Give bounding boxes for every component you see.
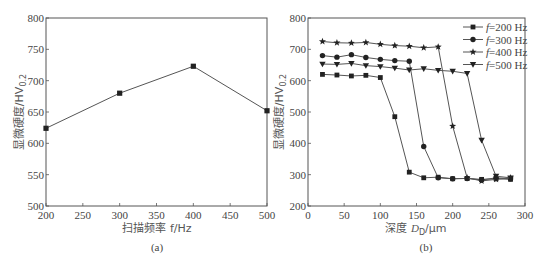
x-tick-label: 50 (339, 209, 351, 221)
square-marker (117, 91, 122, 96)
x-tick-label: 300 (111, 209, 128, 221)
circle-marker (334, 54, 339, 59)
star-marker (478, 177, 485, 184)
triangle-down-marker (478, 138, 484, 144)
x-tick-label: 250 (75, 209, 92, 221)
legend-item: f=300 Hz (463, 34, 527, 46)
circle-marker (421, 144, 426, 149)
triangle-down-marker (464, 71, 470, 77)
y-tick-label: 600 (290, 75, 307, 87)
square-marker (43, 126, 48, 131)
y-tick-label: 700 (290, 43, 307, 55)
y-tick-label: 650 (28, 106, 45, 118)
circle-marker (378, 57, 383, 62)
y-tick-label: 800 (28, 12, 45, 24)
circle-marker (392, 58, 397, 63)
series-line (322, 74, 510, 179)
chart-b-xlabel-pre: 深度 (385, 221, 411, 235)
star-marker (391, 42, 398, 49)
square-marker (363, 73, 368, 78)
series-line (322, 63, 510, 177)
chart-b: 050100150200250300200300400500600700800f… (290, 12, 534, 221)
square-marker (335, 73, 340, 78)
chart-b-xlabel: 深度 DD/μm (385, 221, 446, 237)
chart-b-ylabel: 显微硬度/HV0.2 (272, 74, 288, 150)
series-line (46, 66, 267, 128)
square-marker (264, 108, 269, 113)
legend-label: f=400 Hz (486, 46, 527, 58)
square-marker (320, 72, 325, 77)
x-tick-label: 400 (185, 209, 202, 221)
x-tick-label: 450 (222, 209, 239, 221)
square-marker (407, 170, 412, 175)
y-tick-label: 550 (28, 169, 45, 181)
star-marker (333, 39, 340, 46)
star-marker (377, 41, 384, 48)
legend-item: f=400 Hz (463, 46, 527, 58)
y-tick-label: 500 (28, 200, 45, 212)
figure: 2002503003504004505005005506006507007508… (0, 0, 542, 269)
series-line (322, 55, 510, 180)
circle-marker (407, 59, 412, 64)
y-tick-label: 500 (290, 106, 307, 118)
svg-text:显微硬度/HV0.2: 显微硬度/HV0.2 (12, 74, 28, 150)
y-tick-label: 750 (28, 43, 45, 55)
chart-a-panel-label: (a) (151, 241, 164, 254)
square-marker (378, 75, 383, 80)
svg-text:显微硬度/HV0.2: 显微硬度/HV0.2 (272, 74, 288, 150)
series-hardness (43, 64, 269, 131)
square-marker (471, 25, 476, 30)
x-tick-label: 300 (517, 209, 534, 221)
circle-marker (450, 176, 455, 181)
chart-a-ylabel-sub: 0.2 (19, 74, 28, 87)
chart-a-ylabel: 显微硬度/HV0.2 (12, 74, 28, 150)
star-marker (406, 43, 413, 50)
circle-marker (320, 53, 325, 58)
y-tick-label: 700 (28, 75, 45, 87)
x-tick-label: 350 (148, 209, 165, 221)
star-marker (348, 39, 355, 46)
star-marker (362, 39, 369, 46)
square-marker (421, 175, 426, 180)
chart-a-xlabel: 扫描频率 f/Hz (122, 221, 191, 235)
chart-b-xlabel-post: /μm (425, 222, 446, 235)
star-marker (420, 44, 427, 51)
star-marker (469, 48, 476, 55)
legend-label: f=500 Hz (486, 59, 527, 71)
circle-marker (363, 55, 368, 60)
square-marker (392, 114, 397, 119)
y-tick-label: 600 (28, 137, 45, 149)
x-tick-label: 200 (444, 209, 461, 221)
circle-marker (436, 175, 441, 180)
square-marker (191, 64, 196, 69)
x-tick-label: 150 (408, 209, 425, 221)
series-f-200-hz (320, 72, 513, 182)
circle-marker (349, 52, 354, 57)
square-marker (349, 74, 354, 79)
y-tick-label: 300 (290, 169, 307, 181)
x-tick-label: 0 (305, 209, 311, 221)
chart-b-ylabel-main: 显微硬度/HV (272, 86, 286, 150)
chart-a-ylabel-main: 显微硬度/HV (12, 86, 26, 150)
y-tick-label: 400 (290, 137, 307, 149)
chart-b-panel-label: (b) (420, 241, 433, 254)
x-tick-label: 500 (259, 209, 276, 221)
x-tick-label: 250 (481, 209, 498, 221)
chart-b-ylabel-sub: 0.2 (279, 74, 288, 87)
y-tick-label: 800 (290, 12, 307, 24)
star-marker (449, 122, 456, 129)
y-tick-label: 200 (290, 200, 307, 212)
legend-label: f=300 Hz (486, 34, 527, 46)
chart-a: 2002503003504004505005005506006507007508… (28, 12, 276, 221)
series-f-300-hz (320, 52, 513, 183)
series-f-400-hz (319, 38, 514, 184)
chart-b-xlabel-var: D (410, 222, 419, 234)
x-tick-label: 100 (372, 209, 389, 221)
legend: f=200 Hzf=300 Hzf=400 Hzf=500 Hz (463, 21, 527, 71)
star-marker (319, 38, 326, 45)
legend-item: f=500 Hz (463, 59, 527, 71)
legend-label: f=200 Hz (486, 21, 527, 33)
series-f-500-hz (319, 61, 513, 181)
legend-item: f=200 Hz (463, 21, 527, 33)
circle-marker (470, 37, 475, 42)
